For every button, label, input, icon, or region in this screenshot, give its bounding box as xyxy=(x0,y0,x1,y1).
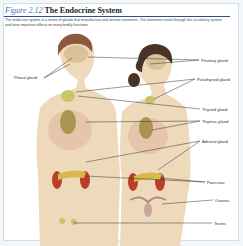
male-figure xyxy=(36,34,120,246)
male-thymus xyxy=(60,110,76,134)
male-testis-left xyxy=(59,218,65,224)
male-brain xyxy=(64,45,88,63)
label-thymus-gland: Thymus gland xyxy=(202,119,228,124)
label-adrenal-gland: Adrenal gland xyxy=(202,139,228,144)
female-thymus xyxy=(139,117,153,139)
label-ovaries: Ovaries xyxy=(215,198,229,203)
label-pineal-gland: Pineal gland xyxy=(14,75,37,80)
female-thyroid xyxy=(145,96,155,104)
label-pancreas: Pancreas xyxy=(207,180,225,185)
male-thyroid xyxy=(61,90,75,102)
female-figure xyxy=(120,44,191,246)
female-brain xyxy=(146,54,166,70)
label-thyroid-gland: Thyroid gland xyxy=(202,107,227,112)
label-parathyroid-gland: Parathyroid gland xyxy=(197,77,230,82)
label-testes: Testes xyxy=(214,221,226,226)
female-hair-bun xyxy=(128,73,140,87)
label-pituitary-gland: Pituitary gland xyxy=(201,58,228,63)
male-testis-right xyxy=(71,219,77,225)
